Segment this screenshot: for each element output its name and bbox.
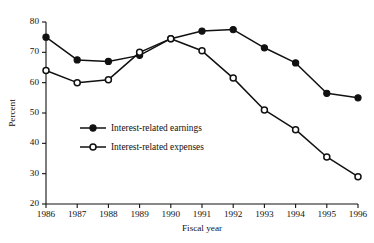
data-point-marker [105, 58, 111, 64]
y-tick-label: 60 [30, 77, 40, 87]
data-point-marker [43, 68, 49, 74]
legend-marker [90, 144, 96, 150]
x-axis-title: Fiscal year [182, 223, 222, 233]
y-tick-label: 70 [30, 46, 40, 56]
x-tick-label: 1995 [318, 209, 337, 219]
data-point-marker [230, 26, 236, 32]
legend-label: Interest-related earnings [111, 123, 202, 133]
x-tick-label: 1992 [224, 209, 243, 219]
data-point-marker [261, 107, 267, 113]
chart-container: 20304050607080 Percent 19861987198819891… [0, 0, 374, 243]
x-tick-label: 1994 [286, 209, 305, 219]
x-tick-label: 1988 [99, 209, 118, 219]
data-point-marker [293, 127, 299, 133]
y-tick-label: 80 [30, 16, 40, 26]
legend-marker [90, 125, 96, 131]
line-chart: 20304050607080 Percent 19861987198819891… [0, 0, 374, 243]
y-tick-label: 40 [30, 137, 40, 147]
data-point-marker [261, 45, 267, 51]
data-point-marker [43, 34, 49, 40]
data-point-marker [355, 95, 361, 101]
data-point-marker [324, 154, 330, 160]
x-tick-label: 1993 [255, 209, 274, 219]
data-point-marker [293, 60, 299, 66]
y-tick-label: 30 [30, 168, 40, 178]
y-tick-label: 20 [30, 198, 40, 208]
x-tick-label: 1990 [162, 209, 181, 219]
chart-background [0, 0, 374, 243]
y-axis-title: Percent [7, 99, 17, 127]
data-point-marker [324, 90, 330, 96]
data-point-marker [230, 75, 236, 81]
y-tick-label: 50 [30, 107, 40, 117]
data-point-marker [199, 28, 205, 34]
data-point-marker [168, 36, 174, 42]
data-point-marker [105, 77, 111, 83]
data-point-marker [355, 174, 361, 180]
legend-label: Interest-related expenses [111, 142, 204, 152]
data-point-marker [199, 48, 205, 54]
x-tick-label: 1991 [193, 209, 212, 219]
data-point-marker [74, 80, 80, 86]
data-point-marker [137, 49, 143, 55]
x-tick-label: 1989 [130, 209, 149, 219]
data-point-marker [74, 57, 80, 63]
x-tick-label: 1996 [349, 209, 368, 219]
x-tick-label: 1986 [37, 209, 56, 219]
x-tick-label: 1987 [68, 209, 87, 219]
